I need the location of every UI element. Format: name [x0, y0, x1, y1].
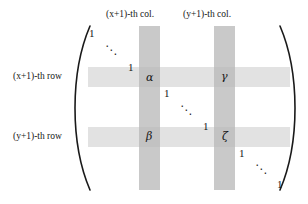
row-highlight-y	[88, 127, 290, 147]
diagonal-one-2: 1	[128, 62, 134, 73]
diagonal-one-2-text: 1	[128, 61, 134, 73]
matrix-entry-zeta-symbol: ζ	[222, 130, 228, 143]
diagonal-ellipsis-3: ⋱	[255, 163, 267, 175]
diagonal-one-6-text: 1	[277, 178, 283, 190]
column-highlight-y	[214, 26, 235, 190]
matrix-entry-alpha-symbol: α	[146, 71, 153, 84]
column-label-x-text: (x+1)-th col.	[106, 9, 154, 19]
matrix-entry-zeta: ζ	[222, 131, 228, 142]
column-label-y-text: (y+1)-th col.	[183, 9, 231, 19]
diagonal-one-3: 1	[164, 88, 170, 99]
column-label-y: (y+1)-th col.	[183, 10, 231, 20]
matrix-entry-gamma: γ	[221, 71, 228, 82]
diagonal-ellipsis-3-glyph: ⋱	[255, 162, 267, 176]
column-label-x: (x+1)-th col.	[106, 10, 154, 20]
diagonal-one-3-text: 1	[164, 87, 170, 99]
matrix-entry-alpha: α	[146, 72, 153, 83]
diagonal-ellipsis-1-glyph: ⋱	[105, 43, 117, 57]
diagonal-one-4: 1	[203, 121, 209, 132]
right-paren-icon	[276, 24, 298, 192]
matrix-entry-beta: β	[146, 131, 152, 142]
diagonal-one-6: 1	[277, 179, 283, 190]
diagonal-one-5-text: 1	[239, 147, 245, 159]
left-paren-icon	[72, 24, 94, 192]
diagonal-ellipsis-2-glyph: ⋱	[180, 103, 192, 117]
column-highlight-x	[139, 26, 160, 190]
diagonal-one-1: 1	[89, 28, 95, 39]
diagonal-one-5: 1	[239, 148, 245, 159]
diagonal-ellipsis-2: ⋱	[180, 104, 192, 116]
matrix-entry-beta-symbol: β	[146, 130, 152, 143]
row-label-x-text: (x+1)-th row	[13, 71, 62, 81]
matrix-entry-gamma-symbol: γ	[221, 70, 228, 83]
row-highlight-x	[88, 67, 290, 87]
matrix-figure: (x+1)-th col. (y+1)-th col. (x+1)-th row…	[0, 0, 308, 204]
row-label-x: (x+1)-th row	[13, 72, 62, 82]
diagonal-one-4-text: 1	[203, 120, 209, 132]
row-label-y-text: (y+1)-th row	[13, 131, 62, 141]
diagonal-ellipsis-1: ⋱	[105, 44, 117, 56]
diagonal-one-1-text: 1	[89, 27, 95, 39]
row-label-y: (y+1)-th row	[13, 132, 62, 142]
